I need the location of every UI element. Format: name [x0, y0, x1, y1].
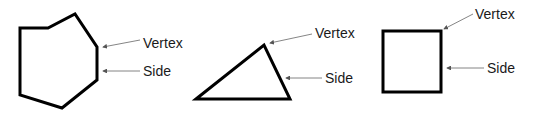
triangle-side-label: Side: [325, 71, 353, 85]
square-vertex-label: Vertex: [475, 7, 515, 21]
triangle-shape: [196, 45, 290, 99]
polygon-diagram: [0, 0, 535, 113]
heptagon-vertex-label: Vertex: [143, 36, 183, 50]
heptagon-vertex-arrow: [103, 40, 140, 47]
square-side-label: Side: [487, 61, 515, 75]
square-shape: [383, 31, 441, 92]
square-vertex-arrow: [444, 14, 473, 29]
triangle-vertex-arrow: [270, 34, 312, 43]
heptagon-side-label: Side: [143, 64, 171, 78]
heptagon-shape: [20, 14, 97, 108]
triangle-vertex-label: Vertex: [315, 26, 355, 40]
